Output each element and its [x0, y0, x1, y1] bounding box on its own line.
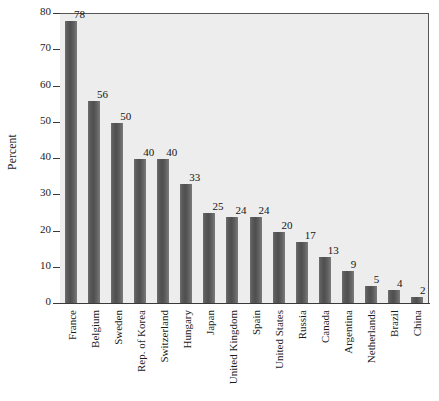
x-axis-label: Japan	[204, 310, 215, 335]
x-axis-label-slot: Rep. of Korea	[129, 304, 152, 401]
bar[interactable]	[319, 257, 331, 304]
x-axis-label: Russia	[297, 310, 308, 339]
x-axis-label: Canada	[320, 310, 331, 343]
bar-value-label: 5	[374, 274, 380, 285]
bar-group[interactable]: 24	[221, 14, 244, 304]
bar-group[interactable]: 2	[406, 14, 429, 304]
bar[interactable]	[111, 123, 123, 304]
x-axis-label: France	[66, 310, 77, 340]
y-axis-tick-mark	[53, 303, 60, 304]
x-axis-label: Argentina	[343, 310, 354, 354]
bar-group[interactable]: 40	[152, 14, 175, 304]
y-axis-tick-mark	[53, 267, 60, 268]
x-axis-label-slot: Canada	[314, 304, 337, 401]
bar[interactable]	[250, 217, 262, 304]
bar-group[interactable]: 9	[337, 14, 360, 304]
x-axis-label-slot: Russia	[291, 304, 314, 401]
y-axis-tick-label: 30	[25, 186, 51, 198]
bar[interactable]	[296, 242, 308, 304]
y-axis-tick-mark	[53, 122, 60, 123]
x-axis-label: China	[412, 310, 423, 336]
bar-group[interactable]: 17	[291, 14, 314, 304]
x-axis-label: United Kingdom	[227, 310, 238, 384]
x-axis-label: Switzerland	[158, 310, 169, 363]
bar[interactable]	[65, 21, 77, 304]
bar[interactable]	[180, 184, 192, 304]
plot-area: 7856504040332524242017139542	[60, 13, 429, 303]
x-axis-label-slot: Brazil	[383, 304, 406, 401]
y-axis-tick-mark	[53, 158, 60, 159]
bar-group[interactable]: 24	[245, 14, 268, 304]
x-axis-label: Sweden	[112, 310, 123, 345]
y-axis-tick-mark	[53, 86, 60, 87]
y-axis: 01020304050607080	[24, 0, 60, 303]
bar-chart: Percent 01020304050607080 78565040403325…	[0, 0, 439, 401]
bar[interactable]	[157, 159, 169, 304]
x-axis-label-slot: Argentina	[337, 304, 360, 401]
y-axis-tick-label: 0	[25, 295, 51, 307]
bar-group[interactable]: 20	[268, 14, 291, 304]
bar[interactable]	[203, 213, 215, 304]
y-axis-tick-label: 50	[25, 114, 51, 126]
x-axis-label-slot: United Kingdom	[221, 304, 244, 401]
bar-group[interactable]: 56	[83, 14, 106, 304]
bar[interactable]	[388, 290, 400, 305]
y-axis-tick-mark	[53, 49, 60, 50]
x-axis-label-slot: France	[60, 304, 83, 401]
bar-group[interactable]: 25	[198, 14, 221, 304]
x-axis-label-slot: United States	[268, 304, 291, 401]
y-axis-tick-label: 10	[25, 259, 51, 271]
bar[interactable]	[134, 159, 146, 304]
bar-group[interactable]: 13	[314, 14, 337, 304]
bar[interactable]	[342, 271, 354, 304]
y-axis-tick-label: 40	[25, 150, 51, 162]
bar[interactable]	[273, 232, 285, 305]
bar-group[interactable]: 4	[383, 14, 406, 304]
bars-layer: 7856504040332524242017139542	[60, 14, 429, 304]
bar-group[interactable]: 78	[60, 14, 83, 304]
y-axis-tick-mark	[53, 13, 60, 14]
x-axis-label-slot: Netherlands	[360, 304, 383, 401]
bar-value-label: 9	[351, 259, 357, 270]
y-axis-title-label: Percent	[6, 134, 18, 170]
x-axis-label-slot: Switzerland	[152, 304, 175, 401]
x-axis-label: United States	[274, 310, 285, 369]
bar-group[interactable]: 50	[106, 14, 129, 304]
y-axis-tick-label: 60	[25, 78, 51, 90]
x-axis-label: Belgium	[89, 310, 100, 348]
y-axis-tick-label: 70	[25, 41, 51, 53]
x-axis-label-slot: Spain	[245, 304, 268, 401]
y-axis-tick-mark	[53, 194, 60, 195]
bar-value-label: 2	[420, 285, 426, 296]
bar[interactable]	[365, 286, 377, 304]
bar[interactable]	[226, 217, 238, 304]
y-axis-tick-label: 80	[25, 5, 51, 17]
bar[interactable]	[88, 101, 100, 304]
x-axis-label: Hungary	[181, 310, 192, 349]
x-axis-label-slot: Belgium	[83, 304, 106, 401]
x-axis-labels: FranceBelgiumSwedenRep. of KoreaSwitzerl…	[60, 304, 429, 401]
x-axis-label-slot: Japan	[198, 304, 221, 401]
x-axis-label: Rep. of Korea	[135, 310, 146, 372]
y-axis-tick-label: 20	[25, 223, 51, 235]
bar-group[interactable]: 40	[129, 14, 152, 304]
bar-group[interactable]: 5	[360, 14, 383, 304]
x-axis-label: Netherlands	[366, 310, 377, 363]
bar-group[interactable]: 33	[175, 14, 198, 304]
x-axis-label-slot: China	[406, 304, 429, 401]
x-axis-label: Spain	[251, 310, 262, 335]
x-axis-label: Brazil	[389, 310, 400, 337]
x-axis-label-slot: Hungary	[175, 304, 198, 401]
y-axis-tick-mark	[53, 231, 60, 232]
y-axis-title: Percent	[0, 0, 24, 303]
bar-value-label: 4	[397, 278, 403, 289]
x-axis-label-slot: Sweden	[106, 304, 129, 401]
